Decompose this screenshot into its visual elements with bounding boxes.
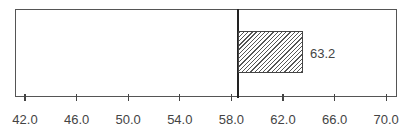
x-tick: [76, 94, 77, 101]
data-bar: [238, 31, 303, 73]
x-tick-label: 62.0: [270, 112, 295, 127]
x-tick: [128, 94, 129, 101]
bar-value-label: 63.2: [310, 46, 335, 61]
x-tick-label: 54.0: [167, 112, 192, 127]
x-tick-label: 70.0: [374, 112, 399, 127]
x-tick: [24, 94, 25, 101]
x-tick-label: 50.0: [116, 112, 141, 127]
x-tick: [282, 94, 283, 101]
x-tick-label: 58.0: [219, 112, 244, 127]
x-tick: [231, 94, 232, 101]
x-tick-label: 66.0: [322, 112, 347, 127]
x-tick-label: 42.0: [12, 112, 37, 127]
hatched-bar-chart: 63.2 42.046.050.054.058.062.066.070.0: [0, 0, 415, 139]
plot-frame: [15, 9, 397, 97]
x-tick: [386, 94, 387, 101]
x-tick: [179, 94, 180, 101]
x-tick-label: 46.0: [64, 112, 89, 127]
x-tick: [334, 94, 335, 101]
